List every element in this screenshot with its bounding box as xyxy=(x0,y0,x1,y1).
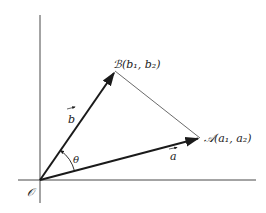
point-b-label: ℬ(b₁, b₂) xyxy=(113,58,160,71)
vector-diagram: ℬ(b₁, b₂) 𝒜(a₁, a₂) 𝒪 θ b a xyxy=(0,0,266,213)
vector-b-label-group: b xyxy=(67,107,75,126)
segment-b-to-a xyxy=(115,71,200,138)
vector-b-label: b xyxy=(68,113,75,126)
vector-a-overarrow-icon xyxy=(169,148,177,150)
angle-theta-label: θ xyxy=(73,154,79,165)
origin-label: 𝒪 xyxy=(27,186,37,199)
point-a-label: 𝒜(a₁, a₂) xyxy=(204,132,252,145)
vector-a-label: a xyxy=(170,150,177,163)
vector-b-overarrow-icon xyxy=(67,107,75,109)
vector-a-label-group: a xyxy=(169,148,177,164)
